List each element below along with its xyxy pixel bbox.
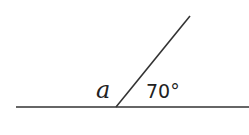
known-angle-label: 70° xyxy=(146,80,180,102)
unknown-angle-label: a xyxy=(96,76,110,104)
angle-diagram: a 70° xyxy=(0,0,249,135)
